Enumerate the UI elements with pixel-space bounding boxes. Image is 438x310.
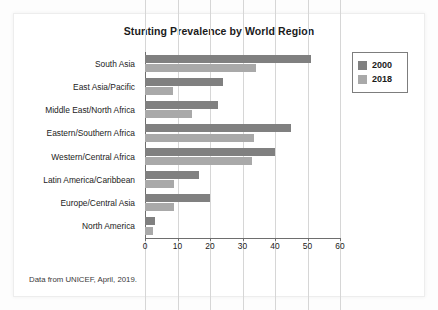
x-axis-tick-mark <box>340 238 341 241</box>
bar-group <box>145 215 340 238</box>
legend-label-2000: 2000 <box>372 60 392 70</box>
legend-swatch-2018 <box>358 75 367 84</box>
bar-2018 <box>145 64 256 72</box>
bar-2018 <box>145 227 153 235</box>
y-axis-category-labels: South AsiaEast Asia/PacificMiddle East/N… <box>0 52 141 238</box>
bar-group <box>145 145 340 168</box>
bar-2000 <box>145 55 311 63</box>
x-axis-tick-label: 60 <box>335 241 344 251</box>
bar-2000 <box>145 171 199 179</box>
bar-2018 <box>145 87 173 95</box>
legend-label-2018: 2018 <box>372 74 392 84</box>
bar-2018 <box>145 180 174 188</box>
x-axis-tick-label: 20 <box>205 241 214 251</box>
chart-legend: 2000 2018 <box>352 52 408 93</box>
x-axis-tick-label: 50 <box>303 241 312 251</box>
bar-2000 <box>145 194 210 202</box>
figure-page: Stunting Prevalence by World Region Sout… <box>0 0 438 310</box>
x-axis-tick-mark <box>275 238 276 241</box>
x-axis-tick-mark <box>210 238 211 241</box>
y-axis-category-label: East Asia/Pacific <box>73 75 135 98</box>
bar-2000 <box>145 148 275 156</box>
x-axis-tick-mark <box>178 238 179 241</box>
y-axis-category-label: North America <box>82 215 135 238</box>
bar-2000 <box>145 101 218 109</box>
bar-2018 <box>145 203 174 211</box>
source-footnote: Data from UNICEF, April, 2019. <box>29 275 137 284</box>
bar-group <box>145 52 340 75</box>
y-axis-category-label: Western/Central Africa <box>51 145 135 168</box>
plot-area <box>145 52 340 238</box>
bar-2000 <box>145 124 291 132</box>
y-axis-category-label: Europe/Central Asia <box>61 192 136 215</box>
legend-item: 2018 <box>358 74 403 84</box>
bar-2000 <box>145 217 155 225</box>
y-axis-category-label: Eastern/Southern Africa <box>47 122 135 145</box>
y-axis-category-label: South Asia <box>95 52 135 75</box>
bar-2018 <box>145 110 192 118</box>
legend-item: 2000 <box>358 60 403 70</box>
x-axis-tick-label: 0 <box>143 241 148 251</box>
bar-rows <box>145 52 340 238</box>
x-axis-tick-mark <box>308 238 309 241</box>
bar-group <box>145 99 340 122</box>
bar-2000 <box>145 78 223 86</box>
legend-swatch-2000 <box>358 61 367 70</box>
y-axis-category-label: Middle East/North Africa <box>45 99 135 122</box>
x-axis-tick-labels: 0102030405060 <box>145 241 341 255</box>
bar-group <box>145 192 340 215</box>
x-axis-tick-mark <box>145 238 146 241</box>
y-axis-category-label: Latin America/Caribbean <box>43 168 135 191</box>
bar-group <box>145 75 340 98</box>
x-axis-tick-label: 30 <box>238 241 247 251</box>
bar-group <box>145 168 340 191</box>
bar-2018 <box>145 157 252 165</box>
bar-2018 <box>145 134 254 142</box>
x-axis-tick-label: 10 <box>173 241 182 251</box>
x-axis-tick-mark <box>243 238 244 241</box>
gridline <box>340 0 341 310</box>
bar-group <box>145 122 340 145</box>
x-axis-tick-label: 40 <box>270 241 279 251</box>
